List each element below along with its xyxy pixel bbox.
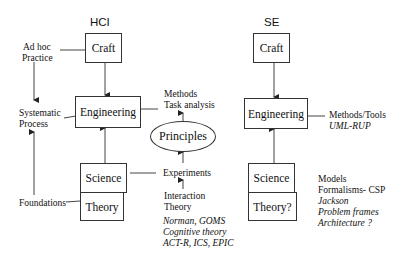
hci-science-box: Science	[80, 163, 127, 193]
hci-craft-box: Craft	[85, 33, 122, 63]
se-problem-frames-label: Problem frames	[318, 207, 379, 218]
process-label: Process	[19, 119, 48, 130]
systematic-label: Systematic	[19, 108, 61, 119]
task-analysis-label: Task analysis	[164, 100, 215, 111]
se-models-label: Models	[318, 174, 347, 185]
se-architecture-label: Architecture ?	[318, 218, 372, 229]
se-craft-box: Craft	[253, 33, 290, 63]
se-jackson-label: Jackson	[318, 196, 349, 207]
example-act-r: ACT-R, ICS, EPIC	[163, 238, 234, 249]
principles-ellipse: Principles	[150, 121, 216, 152]
ad-hoc-label: Ad hoc	[23, 42, 51, 53]
se-theory-box: Theory?	[248, 192, 297, 221]
interaction-theory-label: Theory	[164, 202, 191, 213]
methods-label: Methods	[164, 89, 197, 100]
interaction-label: Interaction	[164, 191, 205, 202]
se-uml-rup-label: UML-RUP	[329, 121, 371, 132]
hci-theory-box: Theory	[80, 192, 124, 221]
se-engineering-box: Engineering	[244, 98, 308, 129]
example-cognitive-theory: Cognitive theory	[163, 227, 227, 238]
practice-label: Practice	[22, 53, 53, 64]
hci-engineering-box: Engineering	[75, 96, 141, 128]
experiments-label: Experiments	[163, 168, 211, 179]
se-science-box: Science	[248, 163, 295, 193]
hci-title: HCI	[90, 17, 110, 28]
se-methods-tools-label: Methods/Tools	[329, 110, 386, 121]
se-title: SE	[264, 17, 279, 28]
hci-se-diagram: HCI Craft Engineering Science Theory Ad …	[0, 0, 402, 265]
example-norman-goms: Norman, GOMS	[163, 216, 225, 227]
se-formalisms-label: Formalisms- CSP	[318, 185, 385, 196]
foundations-label: Foundations	[19, 198, 66, 209]
